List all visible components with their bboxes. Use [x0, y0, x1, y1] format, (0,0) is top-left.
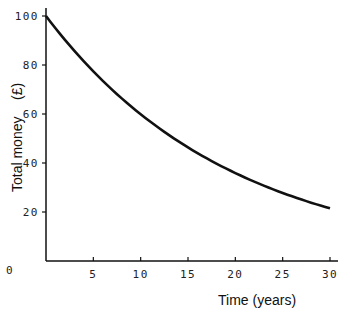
x-tick-label: 30	[322, 268, 338, 281]
y-axis-label: Total money	[9, 117, 25, 192]
decay-curve	[46, 16, 330, 208]
y-tick-label: 100	[15, 10, 39, 23]
y-tick-label: 60	[23, 108, 39, 121]
line-chart: 20406080100 51015202530 0 Time (years) T…	[0, 0, 352, 316]
y-tick-label: 80	[23, 59, 39, 72]
x-axis-label: Time (years)	[218, 292, 296, 308]
y-axis-label-group: Total money (£)	[9, 83, 25, 192]
origin-label: 0	[6, 264, 13, 277]
x-tick-label: 25	[275, 268, 291, 281]
y-tick-label: 40	[23, 157, 39, 170]
x-tick-label: 20	[227, 268, 243, 281]
y-tick-label: 20	[23, 206, 39, 219]
x-tick-label: 10	[133, 268, 149, 281]
x-tick-label: 15	[180, 268, 196, 281]
y-axis-unit: (£)	[9, 83, 25, 100]
x-tick-label: 5	[89, 268, 97, 281]
